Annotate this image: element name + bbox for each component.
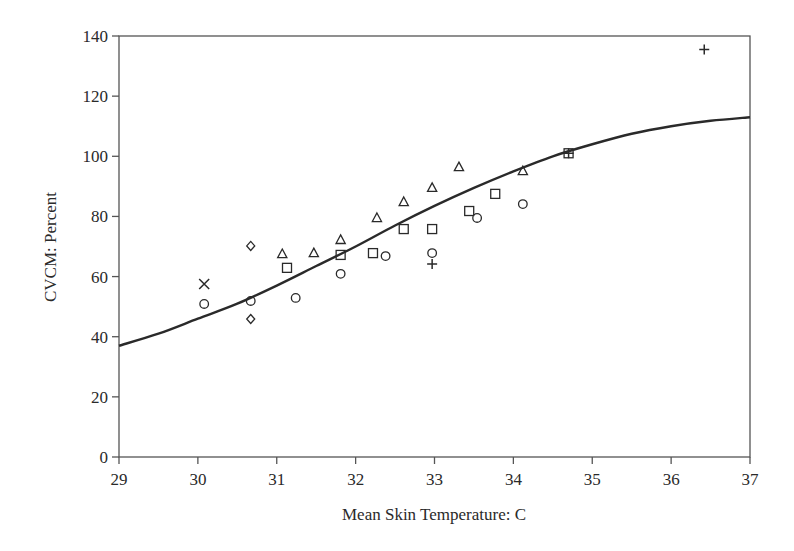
x-tick-label: 35 (584, 470, 601, 489)
square-marker (368, 249, 377, 258)
x-axis-title: Mean Skin Temperature: C (342, 505, 526, 524)
triangle-marker (399, 197, 408, 206)
y-tick-label: 20 (91, 388, 108, 407)
y-tick-label: 0 (100, 448, 109, 467)
plot-frame (119, 36, 750, 457)
x-tick-label: 33 (426, 470, 443, 489)
circle-marker (200, 300, 209, 309)
y-axis-title: CVCM: Percent (41, 192, 60, 302)
diamond-marker (247, 241, 255, 250)
y-tick-label: 40 (91, 328, 108, 347)
x-axis: 293031323334353637 (111, 457, 760, 489)
data-points (199, 45, 709, 324)
triangle-marker (278, 249, 287, 258)
x-tick-label: 36 (663, 470, 680, 489)
y-tick-label: 140 (83, 27, 109, 46)
triangle-marker (454, 162, 463, 171)
circle-marker (381, 252, 390, 261)
y-tick-label: 80 (91, 207, 108, 226)
x-tick-label: 31 (268, 470, 285, 489)
plus-marker (699, 45, 709, 55)
triangle-marker (336, 235, 345, 244)
circle-marker (291, 294, 300, 303)
x-tick-label: 37 (742, 470, 760, 489)
circle-marker (428, 249, 437, 258)
square-marker (283, 263, 292, 272)
x-tick-label: 34 (505, 470, 523, 489)
circle-marker (336, 270, 345, 279)
plus-marker (427, 259, 437, 269)
diamond-marker (247, 314, 255, 323)
fit-curve-line (119, 117, 750, 346)
square-marker (491, 189, 500, 198)
plot-border (119, 36, 750, 457)
y-tick-label: 60 (91, 268, 108, 287)
x-tick-label: 32 (347, 470, 364, 489)
triangle-marker (428, 183, 437, 192)
square-marker (399, 225, 408, 234)
x-marker (199, 279, 209, 289)
x-tick-label: 29 (111, 470, 128, 489)
y-axis: 020406080100120140 (83, 27, 120, 467)
fit-curve (119, 117, 750, 346)
square-marker (428, 225, 437, 234)
y-tick-label: 100 (83, 147, 109, 166)
square-marker (465, 207, 474, 216)
circle-marker (519, 200, 528, 209)
triangle-marker (309, 248, 318, 257)
scatter-chart: 293031323334353637 020406080100120140 Me… (0, 0, 794, 551)
triangle-marker (372, 213, 381, 222)
y-tick-label: 120 (83, 87, 109, 106)
x-tick-label: 30 (189, 470, 206, 489)
